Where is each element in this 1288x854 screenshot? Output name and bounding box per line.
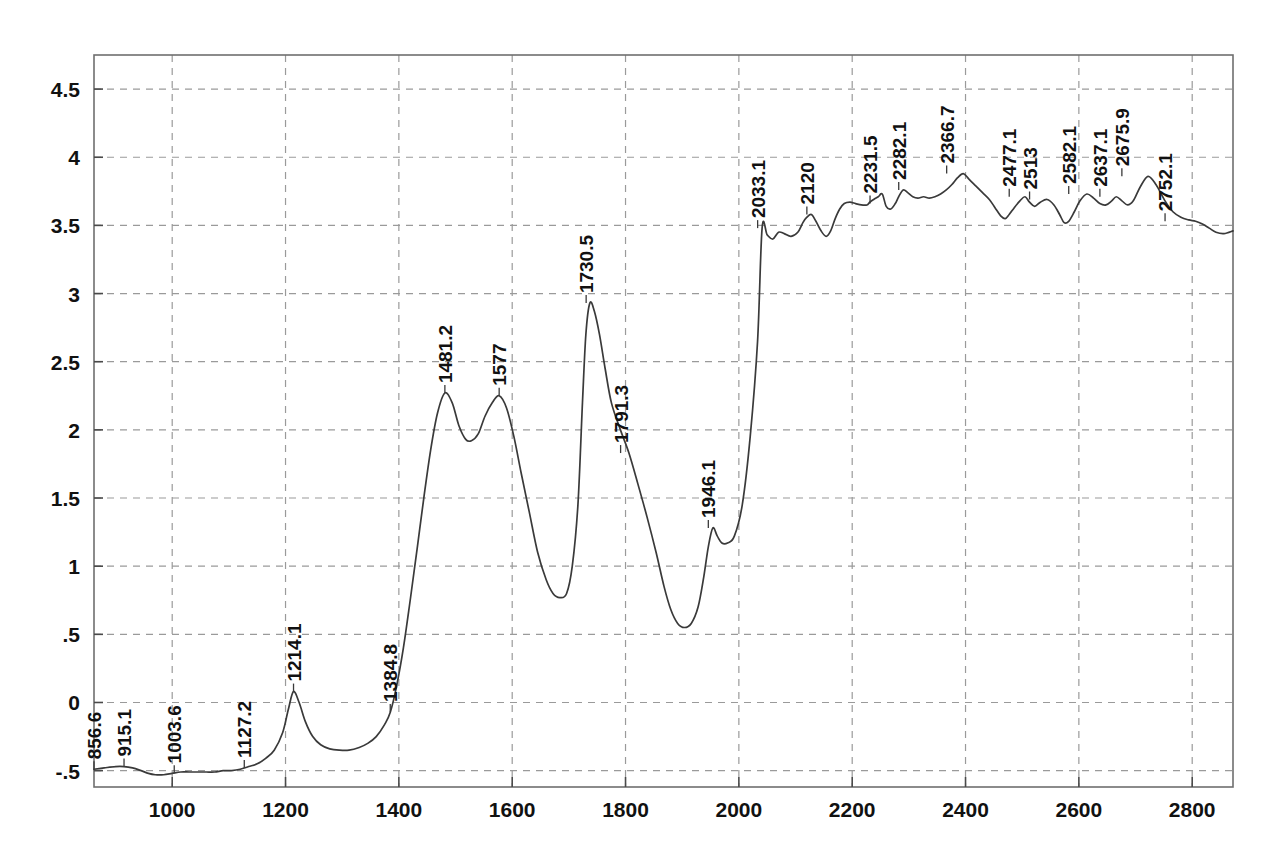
peak-label: 2282.1 [889,121,910,180]
peak-label: 1946.1 [698,459,719,518]
peak-label: 915.1 [114,709,135,757]
peak-annotation: 2752.1 [1155,153,1176,222]
y-axis-tick-label: 1 [68,555,80,578]
peak-label: 2582.1 [1059,125,1080,184]
x-axis-tick-label: 2200 [829,798,876,821]
peak-annotation: 2477.1 [999,128,1020,197]
peak-label: 1577 [489,344,510,386]
peak-annotation: 1214.1 [284,623,305,692]
peak-label: 2231.5 [860,135,881,194]
x-axis-tick-label: 1400 [376,798,423,821]
peak-annotation: 2675.9 [1112,108,1133,176]
y-axis-tick-label: 3 [68,283,80,306]
y-axis-tick-label: 4 [68,146,80,169]
peak-label: 2120 [797,162,818,204]
y-axis-tick-label: .5 [62,623,80,646]
y-axis-tick-label: 4.5 [51,78,81,101]
x-axis-tick-label: 2400 [942,798,989,821]
y-axis-tick-label: 2 [68,419,80,442]
peak-label: 2513 [1020,147,1041,189]
peak-annotation: 1127.2 [234,701,255,768]
peak-annotation: 1003.6 [164,705,185,773]
peak-annotation: 1730.5 [576,235,597,304]
peak-label: 1481.2 [435,325,456,383]
peak-label: 2477.1 [999,128,1020,187]
y-axis-tick-label: 0 [68,691,80,714]
x-axis-tick-label: 2600 [1056,798,1103,821]
peak-annotation: 1946.1 [698,459,719,528]
peak-annotation: 2366.7 [937,105,958,173]
peak-annotation: 2033.1 [748,160,769,229]
x-axis-tick-label: 1200 [262,798,309,821]
y-axis-tick-label: 1.5 [51,487,81,510]
peak-annotation: 1384.8 [380,644,401,712]
peak-label: 856.6 [84,712,105,760]
peak-label: 1730.5 [576,235,597,294]
peak-label: 1127.2 [234,701,255,758]
spectrum-chart: -.50.511.522.533.544.5 10001200140016001… [0,0,1288,854]
y-axis-tick-label: 3.5 [51,214,81,237]
peak-label: 2033.1 [748,160,769,219]
peak-annotation: 2637.1 [1090,128,1111,197]
peak-annotation: 2282.1 [889,121,910,190]
peak-label: 1003.6 [164,705,185,763]
peak-label: 2637.1 [1090,128,1111,187]
spectrum-plot-svg: -.50.511.522.533.544.5 10001200140016001… [0,0,1288,854]
peak-label: 2366.7 [937,105,958,163]
x-axis-tick-label: 2000 [716,798,763,821]
peak-label: 2752.1 [1155,153,1176,212]
peak-label: 1384.8 [380,644,401,702]
peak-annotation: 2582.1 [1059,125,1080,194]
peak-annotation: 1791.3 [611,385,632,453]
peak-label: 2675.9 [1112,108,1133,166]
chart-background [0,0,1288,854]
y-axis-tick-label: -.5 [55,760,80,783]
x-axis-tick-label: 2800 [1169,798,1216,821]
x-axis-tick-label: 1600 [489,798,536,821]
peak-annotation: 1481.2 [435,325,456,393]
peak-annotation: 2231.5 [860,135,881,204]
peak-label: 1791.3 [611,385,632,443]
x-axis-tick-label: 1800 [602,798,649,821]
peak-label: 1214.1 [284,623,305,682]
x-axis-tick-label: 1000 [149,798,196,821]
y-axis-tick-label: 2.5 [51,351,81,374]
